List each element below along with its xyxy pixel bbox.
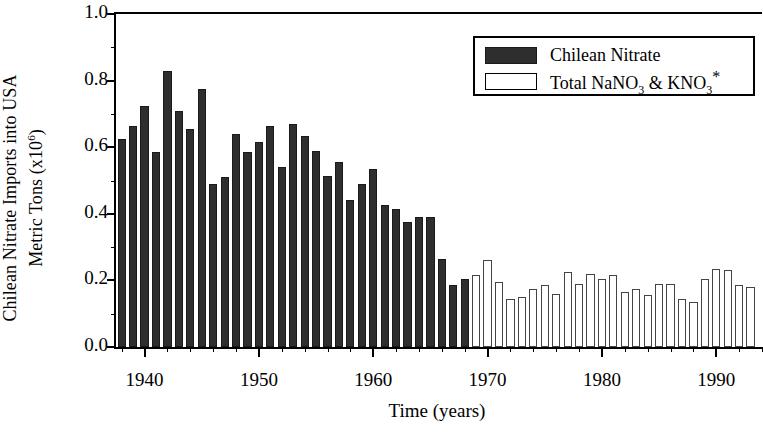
bar [358, 184, 366, 347]
bar [369, 169, 377, 347]
x-axis-minor-tick [419, 347, 420, 352]
bar [323, 176, 331, 347]
y-axis-minor-tick [111, 314, 116, 315]
bar [415, 217, 423, 347]
x-axis-minor-tick [625, 347, 626, 352]
x-axis-minor-tick [510, 347, 511, 352]
bar [426, 217, 434, 347]
x-axis-minor-tick [213, 347, 214, 352]
y-axis-tick-label: 0.6 [62, 135, 108, 154]
bar [301, 136, 309, 347]
bar [472, 275, 480, 347]
bar [632, 289, 640, 347]
bar [575, 284, 583, 347]
bar [609, 275, 617, 347]
bar [335, 162, 343, 347]
bar [586, 274, 594, 347]
bar [140, 106, 148, 347]
x-axis-minor-tick [556, 347, 557, 352]
x-axis-minor-tick [671, 347, 672, 352]
y-axis-tick [107, 80, 116, 82]
bar [552, 294, 560, 347]
y-axis-title-line2-pre: Metric Tons (x10 [26, 141, 46, 267]
y-axis-tick [107, 346, 116, 348]
x-axis-minor-tick [396, 347, 397, 352]
bar [392, 209, 400, 347]
bar [689, 302, 697, 347]
x-axis-minor-tick [739, 347, 740, 352]
x-axis-minor-tick [328, 347, 329, 352]
y-axis-minor-tick [111, 114, 116, 115]
x-axis-minor-tick [236, 347, 237, 352]
bar [529, 289, 537, 347]
bar [678, 299, 686, 347]
y-axis-minor-tick [111, 247, 116, 248]
bar [152, 152, 160, 347]
y-axis-title: Chilean Nitrate Imports into USA Metric … [0, 0, 56, 360]
y-axis-tick-label: 0.4 [62, 202, 108, 221]
bar [346, 200, 354, 347]
y-axis-tick-label: 0.2 [62, 268, 108, 287]
x-axis-minor-tick [305, 347, 306, 352]
x-axis-tick-label: 1950 [224, 370, 294, 390]
bar [403, 222, 411, 347]
x-axis-tick [487, 347, 489, 357]
bar [232, 134, 240, 347]
bar [186, 129, 194, 347]
legend-label-star: * [712, 68, 720, 85]
bar [209, 184, 217, 347]
bar [724, 270, 732, 347]
legend-label-total-nitrates: Total NaNO3 & KNO3* [550, 68, 720, 94]
y-axis-tick [107, 213, 116, 215]
x-axis-minor-tick [693, 347, 694, 352]
bar [312, 151, 320, 347]
x-axis-tick [715, 347, 717, 357]
y-axis-minor-tick [111, 181, 116, 182]
x-axis-minor-tick [282, 347, 283, 352]
x-axis-tick [258, 347, 260, 357]
legend-label-pre: Total NaNO [550, 73, 638, 93]
x-axis-minor-tick [579, 347, 580, 352]
legend-swatch-open [485, 73, 537, 90]
y-axis-tick [107, 146, 116, 148]
x-axis-tick [144, 347, 146, 357]
bar [163, 71, 171, 347]
bar [644, 295, 652, 347]
y-axis-tick-label: 1.0 [62, 2, 108, 21]
bar [701, 279, 709, 347]
bar [495, 282, 503, 347]
x-axis-tick-label: 1980 [567, 370, 637, 390]
bar [289, 124, 297, 347]
x-axis-tick-label: 1940 [110, 370, 180, 390]
y-axis-title-line1: Chilean Nitrate Imports into USA [0, 22, 21, 374]
bar [381, 205, 389, 347]
legend-swatch-filled [485, 47, 537, 64]
bar [666, 284, 674, 347]
bar [506, 299, 514, 347]
x-axis-minor-tick [648, 347, 649, 352]
x-axis-minor-tick [350, 347, 351, 352]
bar [129, 126, 137, 347]
bar [564, 272, 572, 347]
legend-label-mid: & KNO [644, 73, 706, 93]
bar [175, 111, 183, 347]
y-axis-title-exponent: 6 [25, 135, 37, 141]
bar [746, 287, 754, 347]
x-axis-minor-tick [167, 347, 168, 352]
y-axis-tick [107, 279, 116, 281]
x-axis-title: Time (years) [114, 400, 760, 422]
legend-item-total-nitrates: Total NaNO3 & KNO3* [485, 68, 753, 94]
bar [438, 259, 446, 347]
bar [243, 152, 251, 347]
bar [449, 285, 457, 347]
bar [621, 292, 629, 347]
y-axis-title-line2: Metric Tons (x106) [26, 22, 47, 374]
x-axis-minor-tick [122, 347, 123, 352]
bar [198, 89, 206, 347]
y-axis-title-line2-post: ) [26, 129, 46, 135]
bar [221, 177, 229, 347]
x-axis-tick-label: 1970 [453, 370, 523, 390]
x-axis-tick-label: 1960 [338, 370, 408, 390]
x-axis-tick-label: 1990 [681, 370, 751, 390]
